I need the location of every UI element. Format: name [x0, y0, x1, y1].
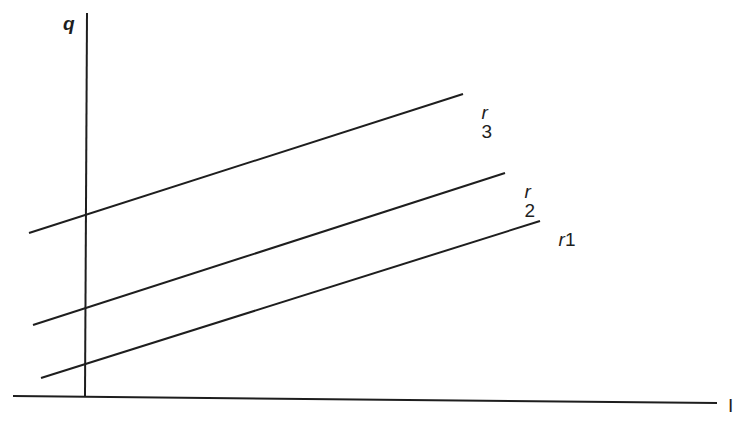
- label-r1: r1: [548, 211, 575, 249]
- y-axis-label: q: [63, 14, 75, 33]
- line-r1: [41, 221, 540, 378]
- x-axis: [13, 396, 717, 403]
- label-r2: r 2: [514, 163, 535, 220]
- label-r3: r 3: [471, 84, 492, 141]
- line-r3: [29, 94, 463, 233]
- label-r3-var: r: [482, 102, 488, 123]
- label-r1-index: 1: [565, 229, 576, 250]
- label-r2-var: r: [525, 181, 531, 202]
- line-r2: [33, 173, 505, 325]
- x-axis-label: I: [728, 396, 733, 415]
- label-r3-index: 3: [482, 121, 493, 142]
- label-r2-index: 2: [525, 200, 536, 221]
- diagram-canvas: [0, 0, 740, 427]
- y-axis: [85, 13, 87, 396]
